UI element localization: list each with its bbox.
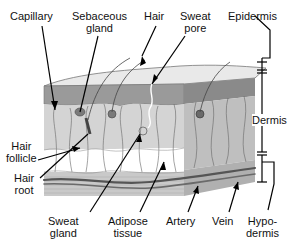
label-sweat-gland: Sweatgland — [48, 215, 79, 239]
label-dermis: Dermis — [252, 114, 287, 126]
hair-leader — [142, 26, 156, 56]
label-artery: Artery — [166, 215, 195, 227]
label-adipose-tissue: Adiposetissue — [108, 215, 148, 239]
skin-diagram: Capillary Sebaceousgland Hair Sweatpore … — [0, 0, 287, 249]
label-hypodermis: Hypo-dermis — [246, 215, 279, 239]
label-hair-follicle: Hairfollicle — [6, 140, 37, 164]
label-hair-root: Hairroot — [14, 172, 34, 196]
label-epidermis: Epidermis — [228, 10, 277, 22]
skin-block-illustration — [0, 0, 287, 249]
label-sebaceous-gland: Sebaceousgland — [72, 10, 127, 34]
hypodermis-connector — [262, 162, 274, 210]
label-vein: Vein — [212, 215, 233, 227]
label-sweat-pore: Sweatpore — [180, 10, 211, 34]
label-capillary: Capillary — [10, 10, 53, 22]
epidermis-connector — [255, 16, 270, 58]
label-hair: Hair — [144, 10, 164, 22]
